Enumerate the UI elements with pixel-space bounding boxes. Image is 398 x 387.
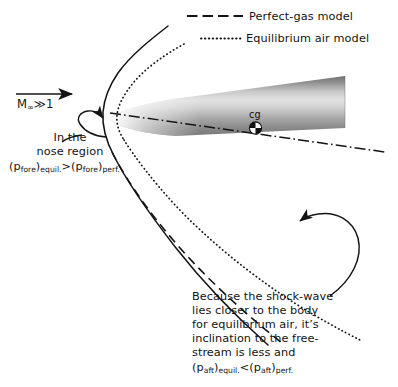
mach-number-label: M∞≫1: [17, 97, 53, 111]
mach-relation: ≫1: [34, 97, 54, 111]
legend-label-equilibrium-air: Equilibrium air model: [246, 32, 369, 46]
formula-p-subscript: fore: [21, 165, 36, 174]
formula-operator: >: [62, 160, 72, 173]
aft-formula-operator: <: [240, 361, 250, 374]
aft-formula-paren-close: ): [214, 361, 218, 374]
aft-annotation-line2: lies closer to the body: [192, 304, 318, 318]
formula-p2-subscript: fore: [83, 165, 98, 174]
formula-p: p: [13, 160, 20, 173]
mach-symbol: M: [17, 97, 27, 111]
formula-state-equil: equil.: [40, 165, 61, 174]
nose-annotation-line2: nose region: [10, 145, 130, 159]
mach-subscript: ∞: [27, 102, 34, 112]
nose-pressure-formula: (pfore)equil.>(pfore)perf.: [9, 160, 120, 174]
aft-annotation-line3: for equilibrium air, it’s: [192, 318, 319, 332]
formula-p2: p: [76, 160, 83, 173]
aft-pressure-formula: (paft)equil.<(paft)perf.: [192, 361, 293, 375]
cg-label: cg: [249, 109, 261, 121]
aft-annotation-line5: stream is less and: [192, 346, 295, 360]
slender-cone-vehicle: [112, 76, 345, 136]
aft-formula-p: p: [196, 361, 203, 374]
aft-formula-p2: p: [254, 361, 261, 374]
aft-curved-leader-arrow: [300, 213, 359, 296]
nose-annotation-line1: In the: [18, 131, 122, 145]
legend-label-perfect-gas: Perfect-gas model: [249, 10, 353, 24]
center-of-gravity-icon: [249, 122, 261, 134]
formula-state-perf: perf.: [102, 165, 119, 174]
aft-formula-state-perf: perf.: [276, 366, 293, 375]
aft-formula-state-equil: equil.: [219, 366, 240, 375]
aft-formula-p2-subscript: aft: [261, 366, 271, 375]
aft-annotation-line4: inclination to the free-: [192, 332, 319, 346]
aft-formula-p-subscript: aft: [204, 366, 214, 375]
aft-annotation-line1: Because the shock-wave: [192, 290, 333, 304]
